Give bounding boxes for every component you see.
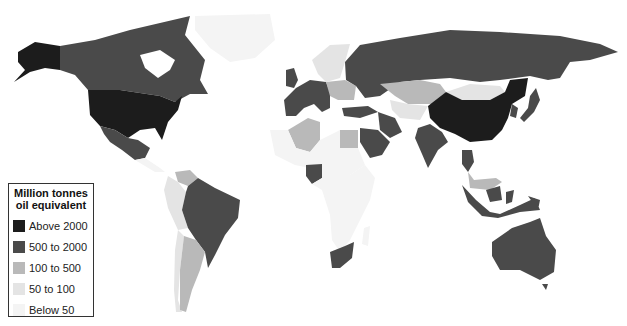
- region-greenland: [195, 14, 275, 62]
- region-madagascar: [362, 226, 370, 246]
- legend-item-500-2000: 500 to 2000: [13, 236, 89, 257]
- world-map: [0, 0, 627, 326]
- region-thailand: [462, 150, 474, 172]
- legend-title-line1: Million tonnes: [13, 187, 89, 199]
- region-indonesia: [462, 185, 540, 218]
- legend-label: 100 to 500: [29, 262, 81, 274]
- region-egypt: [340, 130, 358, 148]
- region-turkey: [342, 106, 378, 118]
- legend-swatch: [13, 304, 25, 316]
- region-alaska: [14, 42, 60, 82]
- legend-item-above-2000: Above 2000: [13, 215, 89, 236]
- legend-item-50-100: 50 to 100: [13, 278, 89, 299]
- region-canada: [60, 16, 208, 102]
- legend-swatch: [13, 220, 25, 232]
- legend-title: Million tonnes oil equivalent: [13, 187, 89, 211]
- legend-label: 500 to 2000: [29, 241, 87, 253]
- legend-item-100-500: 100 to 500: [13, 257, 89, 278]
- legend-swatch: [13, 283, 25, 295]
- region-argentina: [180, 236, 205, 312]
- region-scandinavia: [312, 44, 350, 82]
- region-australia: [492, 218, 556, 290]
- legend-label: Below 50: [29, 304, 74, 316]
- legend-label: 50 to 100: [29, 283, 75, 295]
- legend-title-line2: oil equivalent: [13, 199, 89, 211]
- map-legend: Million tonnes oil equivalent Above 2000…: [8, 183, 94, 317]
- legend-swatch: [13, 262, 25, 274]
- legend-item-below-50: Below 50: [13, 299, 89, 320]
- region-central-america: [135, 158, 165, 172]
- legend-label: Above 2000: [29, 220, 88, 232]
- region-uk: [286, 68, 298, 88]
- legend-swatch: [13, 241, 25, 253]
- region-india: [415, 124, 448, 168]
